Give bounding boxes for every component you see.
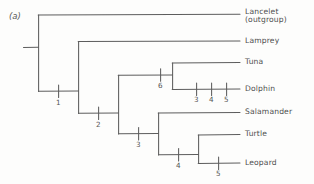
taxon-label-lancelet: Lancelet (outgroup)	[245, 8, 287, 24]
cladogram-figure: (a) Lancelet (outgroup) Lamprey Tuna Dol…	[0, 0, 314, 184]
branch-lancelet	[38, 14, 240, 15]
dolphin-tick-number-5: 5	[224, 96, 229, 104]
dolphin-tick-number-3: 3	[194, 96, 199, 104]
node-number-1: 1	[56, 99, 61, 107]
taxon-label-leopard: Leopard	[245, 159, 277, 167]
taxon-label-dolphin: Dolphin	[245, 85, 275, 93]
taxon-label-turtle: Turtle	[245, 130, 267, 138]
taxon-note-lancelet: (outgroup)	[245, 16, 287, 24]
dolphin-tick-number-4: 4	[209, 96, 214, 104]
node-number-6: 6	[158, 82, 163, 90]
branch-lamprey	[78, 41, 240, 42]
node-number-4: 4	[176, 162, 181, 170]
taxon-label-lamprey: Lamprey	[245, 37, 279, 45]
taxon-label-tuna: Tuna	[245, 58, 263, 66]
taxon-label-salamander: Salamander	[245, 108, 292, 116]
node-number-2: 2	[96, 121, 101, 129]
node-number-5: 5	[216, 170, 221, 178]
panel-label: (a)	[9, 12, 21, 21]
node-number-3: 3	[136, 141, 141, 149]
